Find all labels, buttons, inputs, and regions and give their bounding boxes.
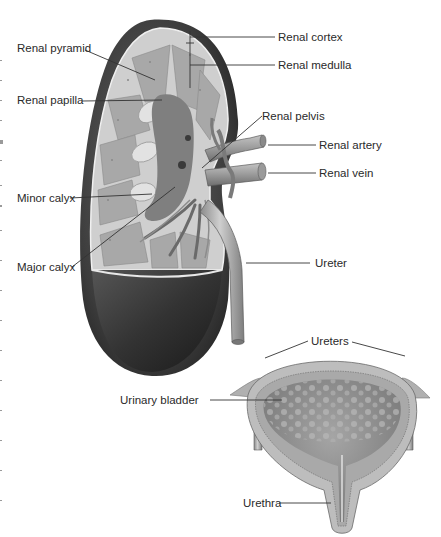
label-renal-artery: Renal artery: [319, 139, 382, 152]
label-urinary-bladder: Urinary bladder: [120, 394, 199, 407]
label-minor-calyx: Minor calyx: [17, 192, 75, 205]
label-renal-cortex: Renal cortex: [278, 31, 343, 44]
label-renal-medulla: Renal medulla: [278, 59, 352, 72]
label-ureters: Ureters: [311, 335, 349, 348]
anatomy-figure: Renal pyramid Renal papilla Minor calyx …: [0, 0, 441, 537]
label-renal-vein: Renal vein: [319, 167, 373, 180]
page-edge-marks: [0, 0, 4, 537]
label-ureter: Ureter: [315, 257, 347, 270]
label-urethra: Urethra: [243, 497, 281, 510]
label-renal-pyramid: Renal pyramid: [17, 42, 91, 55]
label-major-calyx: Major calyx: [17, 261, 75, 274]
label-renal-papilla: Renal papilla: [17, 94, 84, 107]
label-renal-pelvis: Renal pelvis: [262, 110, 325, 123]
kidney: [80, 20, 238, 376]
